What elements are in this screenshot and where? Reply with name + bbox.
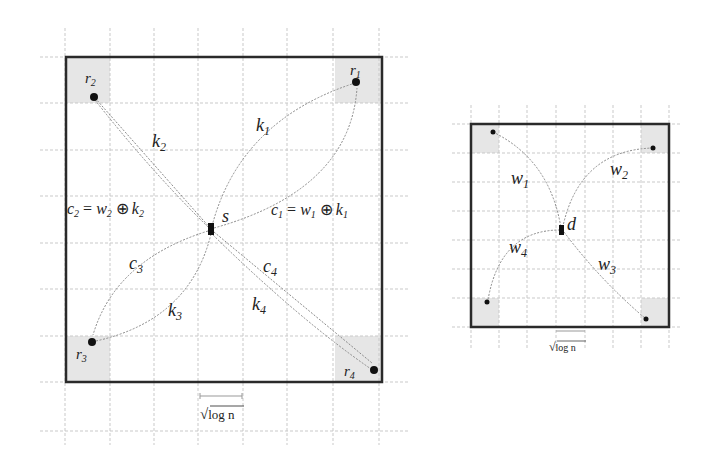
left-scale: √log n xyxy=(200,393,244,422)
label-c3: c3 xyxy=(129,253,143,276)
node-d xyxy=(559,225,564,235)
node-s xyxy=(208,223,214,235)
corner-cell-r4 xyxy=(335,336,382,382)
corner-cell-br xyxy=(641,298,669,327)
path-w2 xyxy=(563,148,653,226)
label-s: s xyxy=(222,206,229,226)
label-d: d xyxy=(567,214,577,234)
path-w3 xyxy=(564,232,646,319)
node-r2 xyxy=(90,93,98,101)
left-paths xyxy=(93,83,372,369)
left-diagram: r2 r1 r3 r4 s k2 k1 c3 c4 k3 k4 c2=w2⊕k2… xyxy=(40,28,408,445)
node-r4 xyxy=(370,366,378,374)
label-k1: k1 xyxy=(256,115,270,138)
corner-cell-r3 xyxy=(66,336,110,382)
label-c4: c4 xyxy=(263,256,277,279)
label-k2: k2 xyxy=(152,131,166,154)
equation-c2: c2=w2⊕k2 xyxy=(67,200,144,219)
right-diagram: d w1 w2 w3 w4 √log n xyxy=(452,105,680,354)
node-r3 xyxy=(88,338,96,346)
path-c2 xyxy=(95,100,209,228)
label-k3: k3 xyxy=(168,300,182,323)
node-tr xyxy=(651,146,656,151)
path-k2 xyxy=(95,98,211,229)
equation-c1: c1=w1⊕k1 xyxy=(271,201,348,220)
node-tl xyxy=(491,130,496,135)
node-br xyxy=(644,317,649,322)
scale-label-left: √log n xyxy=(200,406,235,422)
scale-label-right: √log n xyxy=(549,340,576,354)
path-k1 xyxy=(212,83,355,226)
right-scale: √log n xyxy=(549,331,586,354)
node-bl xyxy=(485,300,490,305)
label-w2: w2 xyxy=(610,159,628,182)
figure-canvas: r2 r1 r3 r4 s k2 k1 c3 c4 k3 k4 c2=w2⊕k2… xyxy=(0,0,708,461)
label-k4: k4 xyxy=(252,294,266,317)
label-w1: w1 xyxy=(511,168,529,191)
corner-cell-tl xyxy=(471,124,499,153)
